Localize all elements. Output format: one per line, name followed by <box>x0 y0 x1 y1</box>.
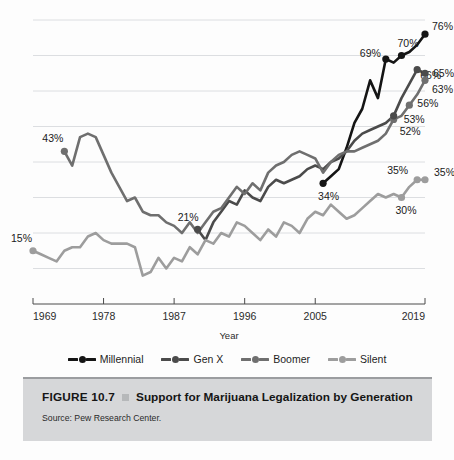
caption-title-row: FIGURE 10.7 Support for Marijuana Legali… <box>23 379 432 404</box>
series-line-boomer <box>64 80 425 233</box>
series-lines <box>33 34 425 275</box>
legend-item-silent[interactable]: Silent <box>328 353 386 365</box>
figure-caption-block: FIGURE 10.7 Support for Marijuana Legali… <box>23 377 432 441</box>
x-axis-tick-label: 1987 <box>162 310 186 322</box>
data-point-label: 35% <box>434 166 454 178</box>
square-bullet-icon <box>122 394 129 401</box>
legend-item-boomer[interactable]: Boomer <box>241 353 310 365</box>
x-axis-tick-label: 2019 <box>402 310 426 322</box>
legend-label-genx: Gen X <box>193 353 223 365</box>
data-point-marker <box>398 194 405 201</box>
x-axis-tick-label: 1978 <box>92 310 116 322</box>
legend-item-millennial[interactable]: Millennial <box>68 353 144 365</box>
data-point-marker <box>421 77 428 84</box>
line-chart-svg: 43%15%21%34%52%53%56%69%70%76%66%65%63%3… <box>0 0 454 345</box>
figure-source: Source: Pew Research Center. <box>23 404 432 423</box>
data-point-label: 52% <box>400 125 421 137</box>
legend-label-boomer: Boomer <box>273 353 310 365</box>
figure-number: FIGURE 10.7 <box>42 390 115 404</box>
data-point-marker <box>382 55 389 62</box>
data-point-label: 76% <box>432 20 453 32</box>
legend-swatch-millennial <box>68 355 96 364</box>
data-point-label: 15% <box>11 232 32 244</box>
chart-plot-area: 43%15%21%34%52%53%56%69%70%76%66%65%63%3… <box>0 0 454 345</box>
data-point-label: 30% <box>395 204 416 216</box>
data-point-marker <box>421 70 428 77</box>
legend-item-genx[interactable]: Gen X <box>161 353 223 365</box>
figure-title: Support for Marijuana Legalization by Ge… <box>136 390 413 404</box>
data-point-marker <box>398 52 405 59</box>
x-axis: 196919781987199620052019 <box>33 298 425 322</box>
data-point-marker <box>421 176 428 183</box>
x-axis-tick-label: 1996 <box>233 310 257 322</box>
data-point-label: 70% <box>397 37 418 49</box>
data-point-label: 35% <box>387 164 408 176</box>
data-point-marker <box>414 176 421 183</box>
legend-label-silent: Silent <box>360 353 386 365</box>
data-point-label: 69% <box>360 47 381 59</box>
x-axis-tick-label: 1969 <box>33 310 57 322</box>
legend-swatch-boomer <box>241 355 269 364</box>
data-point-marker <box>29 247 36 254</box>
legend-swatch-genx <box>161 355 189 364</box>
data-point-marker <box>319 180 326 187</box>
data-point-label: 63% <box>432 83 453 95</box>
data-point-marker <box>421 31 428 38</box>
series-line-silent <box>33 180 425 276</box>
data-point-marker <box>390 112 397 119</box>
data-point-label: 65% <box>433 67 454 79</box>
data-point-label: 34% <box>318 190 339 202</box>
data-point-label: 43% <box>42 132 63 144</box>
x-axis-title: Year <box>219 330 238 341</box>
x-axis-tick-label: 2005 <box>304 310 328 322</box>
chart-legend: Millennial Gen X Boomer Si <box>0 348 454 370</box>
legend-swatch-silent <box>328 355 356 364</box>
data-point-marker <box>194 226 201 233</box>
data-point-label: 56% <box>417 97 438 109</box>
data-point-label: 21% <box>178 211 199 223</box>
figure-container: 43%15%21%34%52%53%56%69%70%76%66%65%63%3… <box>0 0 454 460</box>
data-point-label: 53% <box>404 113 425 125</box>
legend-label-millennial: Millennial <box>100 353 144 365</box>
data-point-marker <box>61 148 68 155</box>
data-point-marker <box>406 102 413 109</box>
